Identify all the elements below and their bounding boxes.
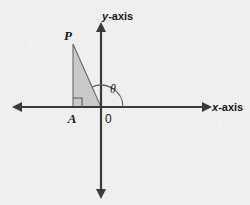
y-axis-down-arrow-icon xyxy=(96,189,106,199)
x-axis-left-arrow-icon xyxy=(12,102,22,112)
x-axis-label-suffix: -axis xyxy=(218,101,243,113)
point-p-label: P xyxy=(64,28,73,43)
y-axis-label: y-axis xyxy=(101,10,133,22)
figure-canvas: y-axis x-axis P A 0 θ xyxy=(0,0,250,205)
y-axis-up-arrow-icon xyxy=(96,22,106,32)
coordinate-plane-diagram: y-axis x-axis P A 0 θ xyxy=(0,0,250,205)
point-a-label: A xyxy=(67,111,77,126)
x-axis-right-arrow-icon xyxy=(202,102,212,112)
y-axis-label-suffix: -axis xyxy=(108,10,133,22)
origin-label: 0 xyxy=(105,112,112,126)
x-axis-label: x-axis xyxy=(211,101,243,113)
angle-theta-label: θ xyxy=(110,82,116,96)
